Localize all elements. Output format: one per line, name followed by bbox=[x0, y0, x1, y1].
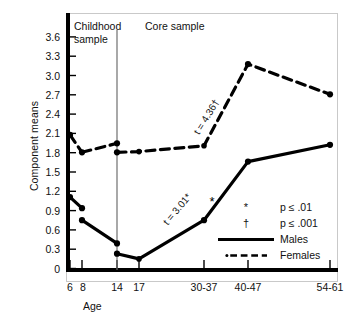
x-tick-label: 40-47 bbox=[235, 282, 262, 293]
panel-label-childhood-sample: Childhood sample bbox=[74, 20, 121, 45]
dagger-icon: † bbox=[218, 215, 274, 231]
x-tick-label: 14 bbox=[111, 282, 123, 293]
legend-label: Females bbox=[280, 247, 320, 263]
x-tick-label: 30-37 bbox=[191, 282, 218, 293]
legend-item-females: Females bbox=[218, 247, 338, 263]
panel-label-core-sample: Core sample bbox=[145, 20, 205, 33]
legend-item-p001: † p ≤ .001 bbox=[218, 215, 338, 231]
chart-legend: * p ≤ .01 † p ≤ .001 Males Females bbox=[218, 199, 338, 263]
legend-item-p01: * p ≤ .01 bbox=[218, 199, 338, 215]
chart-figure: * Component means 0 0.3 0.6 0.9 1.2 1.5 … bbox=[0, 0, 360, 323]
x-tick-labels: 6 8 14 17 30-37 40-47 54-61 bbox=[0, 0, 360, 323]
x-tick-label: 17 bbox=[133, 282, 145, 293]
legend-label: p ≤ .01 bbox=[280, 199, 312, 215]
x-tick-label: 8 bbox=[80, 282, 86, 293]
x-axis-label: Age bbox=[83, 300, 102, 312]
x-tick-label: 6 bbox=[67, 282, 73, 293]
legend-label: Males bbox=[280, 231, 308, 247]
x-tick-label: 54-61 bbox=[317, 282, 344, 293]
asterisk-icon: * bbox=[218, 199, 274, 215]
solid-line-swatch-icon bbox=[218, 238, 274, 241]
legend-label: p ≤ .001 bbox=[280, 215, 318, 231]
legend-item-males: Males bbox=[218, 231, 338, 247]
dashed-line-swatch-icon bbox=[218, 254, 274, 257]
